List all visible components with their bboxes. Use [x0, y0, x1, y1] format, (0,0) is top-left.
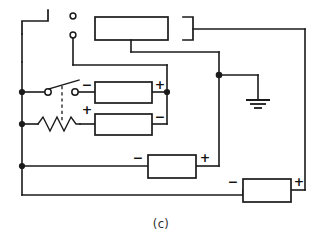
variable-resistor-icon	[38, 117, 80, 131]
lower-block-left-sign: −	[133, 150, 143, 165]
circuit-figure: − + + − − + − + (c)	[0, 0, 323, 240]
bottom-block-left-sign: −	[228, 174, 238, 189]
figure-caption: (c)	[153, 217, 170, 231]
terminal-upper-icon	[70, 13, 76, 19]
ground-symbol-icon	[246, 100, 270, 108]
terminal-lower-icon	[70, 32, 76, 38]
upper-block	[95, 82, 152, 103]
middle-block-right-sign: −	[155, 109, 165, 124]
upper-block-right-sign: +	[155, 77, 165, 92]
left-bracket-icon	[22, 10, 48, 34]
bottom-block	[243, 179, 291, 202]
middle-block-left-sign: +	[82, 102, 92, 117]
middle-block	[95, 114, 152, 135]
lower-block-right-sign: +	[200, 150, 210, 165]
bottom-block-right-sign: +	[294, 174, 304, 189]
top-block	[95, 17, 168, 40]
lower-block	[148, 155, 196, 178]
right-bracket-icon	[183, 17, 193, 40]
upper-block-left-sign: −	[82, 77, 92, 92]
